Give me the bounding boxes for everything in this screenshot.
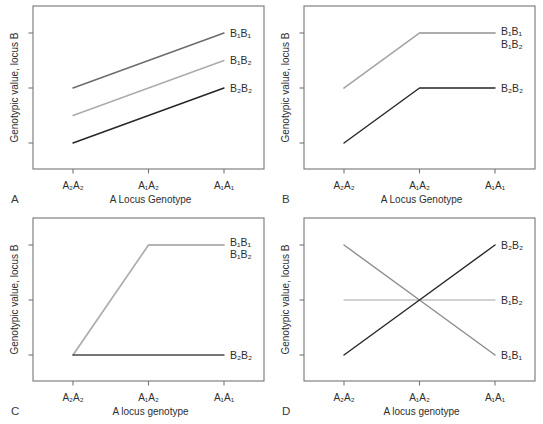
series-line-b1b1 (344, 33, 495, 88)
series-line-b1b2 (73, 61, 224, 116)
x-tick-label-a2a2: A₂A₂ (62, 180, 83, 191)
series-label-b2b2: B₂B₂ (230, 82, 252, 94)
panel-letter-c: C (11, 405, 19, 417)
series-line-b1b1 (73, 33, 224, 88)
y-axis-title: Genotypic value, locus B (9, 244, 20, 354)
x-tick-label-a2a2: A₂A₂ (62, 392, 83, 403)
series-label-b1b2: B₁B₂ (230, 54, 252, 66)
series-label-b1b2: B₁B₂ (230, 248, 252, 260)
panel-a-svg: A₂A₂A₁A₂A₁A₁B₁B₁B₁B₂B₂B₂A Locus Genotype… (0, 0, 272, 212)
series-line-b1b1 (73, 245, 224, 355)
series-label-b1b1: B₁B₁ (230, 27, 252, 39)
panel-d-svg: A₂A₂A₁A₂A₁A₁B₂B₂B₁B₂B₁B₁A locus genotype… (271, 212, 543, 424)
x-tick-label-a1a2: A₁A₂ (409, 180, 430, 191)
panel-letter-a: A (11, 193, 19, 205)
series-line-b1b2 (73, 245, 224, 355)
y-axis-title: Genotypic value, locus B (280, 244, 291, 354)
panel-b: A₂A₂A₁A₂A₁A₁B₁B₁B₁B₂B₂B₂A Locus Genotype… (271, 0, 543, 212)
x-tick-label-a1a1: A₁A₁ (214, 180, 235, 191)
x-tick-label-a2a2: A₂A₂ (333, 392, 354, 403)
x-axis-title: A locus genotype (383, 406, 460, 417)
series-line-b1b2 (344, 33, 495, 88)
panel-a: A₂A₂A₁A₂A₁A₁B₁B₁B₁B₂B₂B₂A Locus Genotype… (0, 0, 272, 212)
x-tick-label-a2a2: A₂A₂ (333, 180, 354, 191)
series-label-b2b2: B₂B₂ (501, 239, 523, 251)
series-label-b1b2: B₁B₂ (501, 294, 523, 306)
x-axis-title: A Locus Genotype (110, 194, 192, 205)
x-tick-label-a1a2: A₁A₂ (138, 392, 159, 403)
series-label-b1b1: B₁B₁ (230, 236, 252, 248)
panel-letter-d: D (282, 405, 290, 417)
series-line-b2b2 (344, 88, 495, 143)
x-axis-title: A Locus Genotype (381, 194, 463, 205)
x-axis-title: A locus genotype (112, 406, 189, 417)
panel-letter-b: B (282, 193, 290, 205)
y-axis-title: Genotypic value, locus B (9, 32, 20, 142)
panel-c: A₂A₂A₁A₂A₁A₁B₁B₁B₁B₂B₂B₂A locus genotype… (0, 212, 272, 424)
panel-d: A₂A₂A₁A₂A₁A₁B₂B₂B₁B₂B₁B₁A locus genotype… (271, 212, 543, 424)
series-line-b2b2 (73, 88, 224, 143)
series-label-b1b2: B₁B₂ (501, 38, 523, 50)
x-tick-label-a1a1: A₁A₁ (214, 392, 235, 403)
x-tick-label-a1a2: A₁A₂ (138, 180, 159, 191)
x-tick-label-a1a1: A₁A₁ (485, 180, 506, 191)
panel-c-svg: A₂A₂A₁A₂A₁A₁B₁B₁B₁B₂B₂B₂A locus genotype… (0, 212, 272, 424)
panel-b-svg: A₂A₂A₁A₂A₁A₁B₁B₁B₁B₂B₂B₂A Locus Genotype… (271, 0, 543, 212)
series-label-b1b1: B₁B₁ (501, 25, 523, 37)
x-tick-label-a1a1: A₁A₁ (485, 392, 506, 403)
y-axis-title: Genotypic value, locus B (280, 32, 291, 142)
x-tick-label-a1a2: A₁A₂ (409, 392, 430, 403)
series-label-b2b2: B₂B₂ (230, 349, 252, 361)
series-label-b2b2: B₂B₂ (501, 82, 523, 94)
series-label-b1b1: B₁B₁ (501, 349, 523, 361)
four-panel-epistasis-figure: A₂A₂A₁A₂A₁A₁B₁B₁B₁B₂B₂B₂A Locus Genotype… (0, 0, 543, 424)
